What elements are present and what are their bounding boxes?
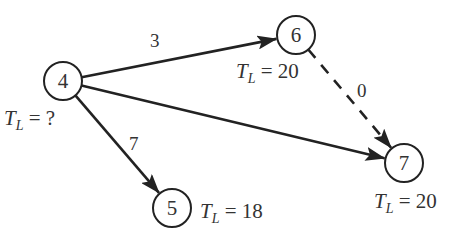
latest-time-label: TL = 18 <box>200 199 263 226</box>
edge-weight-label: 3 <box>150 30 160 51</box>
edge-6-to-7 <box>308 50 391 148</box>
node-6: 6 <box>277 16 315 54</box>
node-number-label: 5 <box>167 196 178 220</box>
edge-4-to-5 <box>75 95 159 192</box>
network-diagram: 4675 370TL = ?TL = 20TL = 20TL = 18 <box>0 0 469 235</box>
node-number-label: 6 <box>291 23 302 47</box>
edge-4-to-7 <box>81 85 384 158</box>
edges-layer <box>75 39 391 193</box>
node-4: 4 <box>44 62 82 100</box>
edge-weight-label: 0 <box>357 80 367 101</box>
node-number-label: 7 <box>399 151 410 175</box>
node-7: 7 <box>385 144 423 182</box>
node-number-label: 4 <box>58 69 69 93</box>
edge-weight-label: 7 <box>129 133 139 154</box>
latest-time-label: TL = 20 <box>374 189 437 216</box>
node-5: 5 <box>153 189 191 227</box>
labels-layer: 370TL = ?TL = 20TL = 20TL = 18 <box>4 30 437 226</box>
latest-time-label: TL = ? <box>4 106 55 133</box>
latest-time-label: TL = 20 <box>236 59 299 86</box>
diagram-svg: 4675 370TL = ?TL = 20TL = 20TL = 18 <box>0 0 469 235</box>
